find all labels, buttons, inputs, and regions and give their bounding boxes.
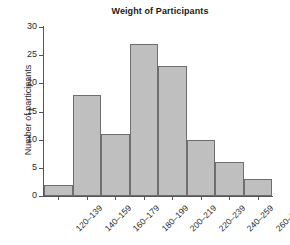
y-axis-tick: 20 (0, 83, 43, 84)
histogram-bar (101, 134, 130, 196)
x-axis-tick-mark (58, 196, 59, 200)
y-axis-tick-label: 10 (27, 134, 37, 144)
x-axis-tick-mark (115, 196, 116, 200)
y-axis-tick-mark (39, 140, 43, 141)
x-axis-tick-label: 200–219 (188, 203, 218, 233)
x-axis-tick-label: 240–259 (245, 203, 275, 233)
x-axis-tick-label: 120–139 (74, 203, 104, 233)
histogram-bar (44, 185, 73, 196)
y-axis-tick-mark (39, 168, 43, 169)
x-axis-line (43, 196, 273, 197)
chart-title: Weight of Participants (40, 6, 280, 16)
y-axis-tick-mark (39, 55, 43, 56)
y-axis-tick: 0 (0, 196, 43, 197)
y-axis-tick: 25 (0, 55, 43, 56)
plot-area (44, 27, 272, 196)
x-axis-tick-mark (201, 196, 202, 200)
y-axis-tick-label: 25 (27, 49, 37, 59)
y-axis-tick-label: 5 (32, 162, 37, 172)
y-axis-tick: 15 (0, 112, 43, 113)
x-axis-tick-label: 160–179 (131, 203, 161, 233)
y-axis-tick-label: 0 (32, 190, 37, 200)
histogram-bar (244, 179, 273, 196)
x-axis-tick-mark (172, 196, 173, 200)
histogram-bar (187, 140, 216, 196)
histogram-chart: Weight of Participants Number of partici… (0, 0, 290, 245)
x-axis-tick-mark (144, 196, 145, 200)
histogram-bar (73, 95, 102, 196)
x-axis-tick-mark (87, 196, 88, 200)
y-axis-tick: 30 (0, 27, 43, 28)
y-axis-tick-label: 20 (27, 77, 37, 87)
y-axis-tick-label: 30 (27, 21, 37, 31)
y-axis-tick-mark (39, 112, 43, 113)
y-axis-tick: 5 (0, 168, 43, 169)
histogram-bar (130, 44, 159, 196)
x-axis-tick-label: 260–279 (273, 203, 290, 233)
y-axis-tick-mark (39, 83, 43, 84)
y-axis-tick-mark (39, 196, 43, 197)
histogram-bar (215, 162, 244, 196)
x-axis-tick-mark (229, 196, 230, 200)
x-axis-tick-label: 180–199 (159, 203, 189, 233)
y-axis-tick-mark (39, 27, 43, 28)
y-axis-tick-label: 15 (27, 106, 37, 116)
y-axis-tick: 10 (0, 140, 43, 141)
x-axis-tick-mark (258, 196, 259, 200)
histogram-bar (158, 66, 187, 196)
bar-series (44, 27, 272, 196)
x-axis-tick-label: 220–239 (216, 203, 246, 233)
x-axis-tick-label: 140–159 (102, 203, 132, 233)
